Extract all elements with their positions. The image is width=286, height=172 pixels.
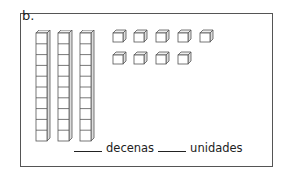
ten-rod: [57, 30, 71, 142]
units-label: unidades: [190, 141, 243, 155]
exercise-label: b.: [22, 9, 34, 23]
tens-blank[interactable]: [74, 150, 102, 152]
ten-rod: [35, 30, 49, 142]
unit-cubes: [110, 28, 220, 74]
units-blank[interactable]: [158, 150, 186, 152]
tens-label: decenas: [106, 141, 154, 155]
answer-line: decenasunidades: [74, 141, 243, 155]
ten-rod: [79, 30, 93, 142]
